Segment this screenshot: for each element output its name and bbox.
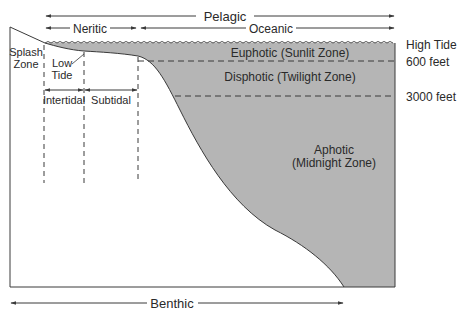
label-low-tide-line2: Tide: [52, 69, 73, 81]
label-splash-line2: Zone: [13, 58, 38, 70]
label-benthic: Benthic: [150, 296, 194, 311]
label-neritic: Neritic: [73, 22, 107, 36]
low-tide-pointer: [72, 54, 84, 64]
label-high-tide: High Tide: [406, 38, 457, 52]
label-euphotic: Euphotic (Sunlit Zone): [231, 46, 350, 60]
label-oceanic: Oceanic: [249, 22, 293, 36]
label-splash-line1: Splash: [9, 46, 43, 58]
label-low-tide-line1: Low: [52, 57, 72, 69]
label-aphotic-line2: (Midnight Zone): [292, 156, 376, 170]
label-pelagic: Pelagic: [204, 9, 247, 24]
water-surface-waves: [45, 42, 393, 44]
ocean-zones-diagram: Pelagic Neritic Oceanic Benthic Splash Z…: [0, 0, 462, 317]
label-intertidal: Intertidal: [43, 94, 85, 106]
label-600-feet: 600 feet: [406, 55, 450, 69]
label-aphotic-line1: Aphotic: [314, 143, 354, 157]
label-subtidal: Subtidal: [91, 94, 131, 106]
label-3000-feet: 3000 feet: [406, 90, 457, 104]
label-disphotic: Disphotic (Twilight Zone): [224, 70, 355, 84]
